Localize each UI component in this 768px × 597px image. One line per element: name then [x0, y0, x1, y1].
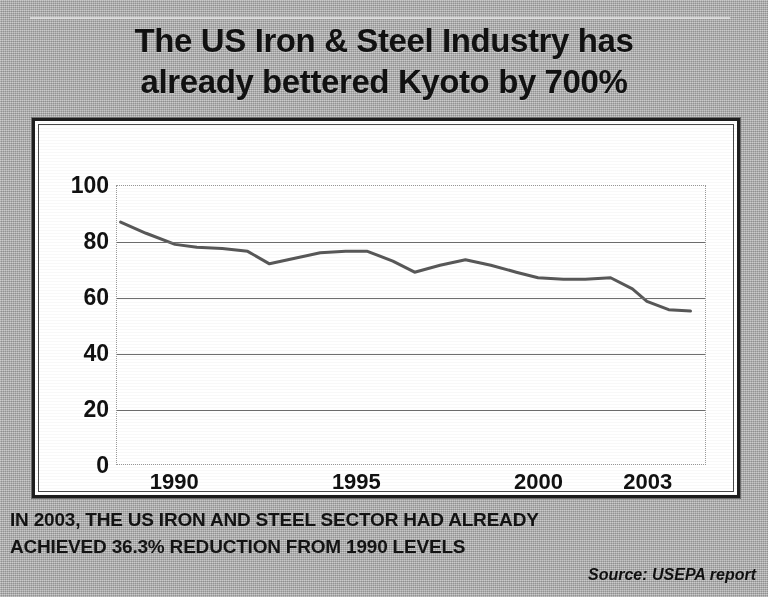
x-axis-tick-label: 2000	[514, 469, 563, 495]
y-axis: 100806040200	[35, 185, 109, 465]
gridline	[117, 242, 705, 243]
headline-line-2: already bettered Kyoto by 700%	[0, 61, 768, 102]
gridline	[117, 410, 705, 411]
top-rule-divider	[30, 17, 730, 19]
gridline	[117, 354, 705, 355]
plot-area	[116, 185, 706, 465]
headline-line-1: The US Iron & Steel Industry has	[0, 20, 768, 61]
x-axis-tick-label: 1995	[332, 469, 381, 495]
y-axis-tick-label: 40	[35, 340, 109, 367]
x-axis-tick-label: 1990	[150, 469, 199, 495]
line-series	[117, 186, 705, 464]
caption-line-2: ACHIEVED 36.3% REDUCTION FROM 1990 LEVEL…	[10, 533, 758, 560]
y-axis-tick-label: 100	[35, 172, 109, 199]
y-axis-tick-label: 80	[35, 228, 109, 255]
chart-panel: 100806040200 1990199520002003	[32, 118, 740, 498]
newspaper-clipping-figure: The US Iron & Steel Industry has already…	[0, 0, 768, 597]
y-axis-tick-label: 0	[35, 452, 109, 479]
y-axis-tick-label: 20	[35, 396, 109, 423]
caption: IN 2003, THE US IRON AND STEEL SECTOR HA…	[10, 506, 758, 560]
headline: The US Iron & Steel Industry has already…	[0, 20, 768, 102]
caption-line-1: IN 2003, THE US IRON AND STEEL SECTOR HA…	[10, 506, 758, 533]
gridline	[117, 298, 705, 299]
x-axis-tick-label: 2003	[623, 469, 672, 495]
x-axis: 1990199520002003	[116, 469, 706, 501]
y-axis-tick-label: 60	[35, 284, 109, 311]
source-credit: Source: USEPA report	[588, 566, 756, 584]
